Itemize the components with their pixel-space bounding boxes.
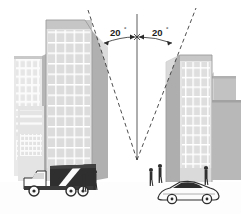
left-angle-value: 20 bbox=[110, 27, 121, 38]
right-side-wall bbox=[212, 100, 241, 180]
car-rear-hub bbox=[206, 198, 209, 201]
left-tower-windows bbox=[48, 30, 90, 172]
truck-front-hub bbox=[32, 189, 35, 192]
left-low-block-windows bbox=[20, 134, 42, 156]
truck-rear-hub bbox=[69, 189, 72, 192]
street-canyon-diagram: 20 ° 20 ° bbox=[0, 0, 241, 214]
car-front-hub bbox=[171, 198, 174, 201]
right-side-wall-top bbox=[212, 100, 241, 103]
right-tower-roof-cap bbox=[180, 55, 212, 61]
diagram-canvas: 20 ° 20 ° bbox=[0, 0, 241, 214]
right-tower-windows bbox=[182, 62, 210, 172]
left-low-block-bands bbox=[20, 110, 42, 128]
right-angle-value: 20 bbox=[152, 27, 163, 38]
left-tower-roof-cap bbox=[46, 20, 92, 29]
narrow-left-building-roof bbox=[14, 56, 42, 59]
narrow-left-building-windows bbox=[16, 59, 40, 111]
right-far-block-roof bbox=[210, 76, 236, 79]
